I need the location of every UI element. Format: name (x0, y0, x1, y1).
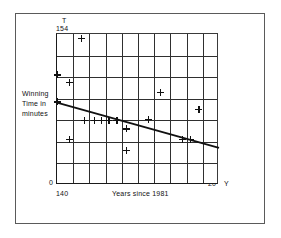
figure-canvas: T 154 Winning Time in minutes 0 140 Year… (0, 0, 281, 238)
data-point-marker (91, 117, 98, 124)
y-axis-title: Winning Time in minutes (22, 89, 54, 119)
data-point-marker (187, 136, 194, 143)
x-axis-symbol: Y (224, 180, 229, 187)
y-axis-symbol: T (62, 17, 66, 24)
x-axis-title: Years since 1981 (112, 190, 169, 197)
data-point-marker (157, 89, 164, 96)
data-point-marker (54, 98, 61, 105)
data-point-marker (179, 136, 186, 143)
data-point-marker (123, 125, 130, 132)
y-axis-origin-label: 0 (49, 179, 53, 186)
data-point-marker (145, 116, 152, 123)
data-point-marker (105, 117, 112, 124)
x-axis-min-tick-label: 140 (56, 190, 68, 197)
data-point-marker (113, 117, 120, 124)
plot-area (56, 33, 218, 184)
y-axis-max-tick-label: 154 (56, 25, 68, 32)
data-point-marker (54, 71, 61, 78)
data-point-marker (123, 147, 130, 154)
data-point-marker (81, 117, 88, 124)
data-point-marker (78, 35, 85, 42)
data-point-marker (98, 117, 105, 124)
data-point-marker (66, 79, 73, 86)
data-point-marker (66, 136, 73, 143)
data-point-marker (195, 106, 202, 113)
